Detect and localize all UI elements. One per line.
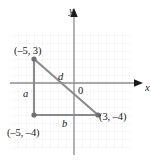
vertex-dot-bottom-left <box>31 112 36 117</box>
vertex-dot-top-left <box>31 56 36 61</box>
segment-label-d: d <box>58 72 63 83</box>
point-label-top-left: (–5, 3) <box>14 46 41 57</box>
coordinate-plane-figure: y x 0 (–5, 3) (–5, –4) (3, –4) a b d <box>0 0 151 160</box>
segment-label-b: b <box>62 119 67 130</box>
point-label-bottom-left: (–5, –4) <box>7 128 39 139</box>
x-axis-label: x <box>145 83 150 94</box>
point-label-bottom-right: (3, –4) <box>99 112 126 123</box>
segment-label-a: a <box>23 89 28 100</box>
x-axis-arrowhead-icon <box>134 79 143 87</box>
origin-label: 0 <box>78 86 83 97</box>
y-axis-label: y <box>69 6 74 17</box>
